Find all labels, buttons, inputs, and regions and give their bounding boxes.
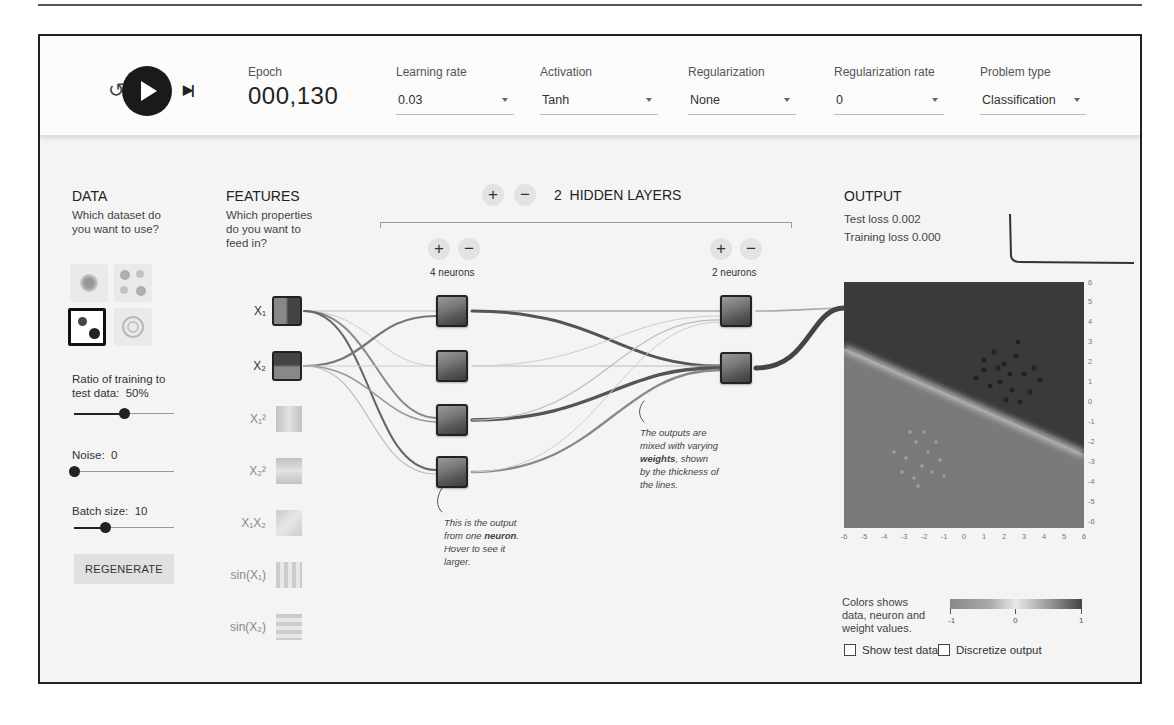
discretize-output-checkbox[interactable] bbox=[938, 644, 950, 656]
x-tick: 1 bbox=[978, 532, 990, 541]
color-legend-gradient bbox=[950, 599, 1082, 609]
legend-tick-max: 1 bbox=[1079, 616, 1083, 625]
color-legend-text: Colors shows data, neuron and weight val… bbox=[842, 596, 932, 635]
discretize-output-label[interactable]: Discretize output bbox=[956, 644, 1042, 656]
y-tick: 4 bbox=[1088, 317, 1092, 326]
x-tick: 2 bbox=[998, 532, 1010, 541]
y-tick: 2 bbox=[1088, 357, 1092, 366]
legend-tick-min: -1 bbox=[948, 616, 955, 625]
x-tick: -6 bbox=[838, 532, 850, 541]
x-tick: 4 bbox=[1038, 532, 1050, 541]
y-tick: -3 bbox=[1088, 457, 1095, 466]
x-tick: 6 bbox=[1078, 532, 1090, 541]
y-tick: 6 bbox=[1088, 278, 1092, 287]
y-tick: 5 bbox=[1088, 297, 1092, 306]
test-loss: Test loss 0.002 bbox=[844, 212, 921, 226]
neuron-layer2-1[interactable] bbox=[720, 295, 752, 327]
neuron-layer1-4[interactable] bbox=[436, 456, 468, 488]
x-tick: -3 bbox=[898, 532, 910, 541]
legend-tick-mid: 0 bbox=[1013, 616, 1017, 625]
neuron-layer2-2[interactable] bbox=[720, 352, 752, 384]
y-tick: -4 bbox=[1088, 477, 1095, 486]
x-tick: -1 bbox=[938, 532, 950, 541]
x-tick: 5 bbox=[1058, 532, 1070, 541]
output-title: OUTPUT bbox=[844, 188, 902, 204]
neuron-layer1-1[interactable] bbox=[436, 295, 468, 327]
neuron-layer1-2[interactable] bbox=[436, 350, 468, 382]
y-tick: 1 bbox=[1088, 377, 1092, 386]
neuron-callout-note: This is the output from one neuron. Hove… bbox=[444, 516, 554, 568]
playground-frame: ↺ ▶| Epoch 000,130 Learning rate 0.03 Ac… bbox=[38, 34, 1142, 684]
y-tick: -1 bbox=[1088, 417, 1095, 426]
y-tick: -5 bbox=[1088, 497, 1095, 506]
top-rule bbox=[38, 4, 1142, 6]
neuron-layer1-3[interactable] bbox=[436, 404, 468, 436]
y-tick: 0 bbox=[1088, 397, 1092, 406]
show-test-data-checkbox[interactable] bbox=[844, 644, 856, 656]
x-tick: -4 bbox=[878, 532, 890, 541]
x-tick: -5 bbox=[858, 532, 870, 541]
output-decision-heatmap[interactable] bbox=[844, 282, 1084, 528]
training-loss: Training loss 0.000 bbox=[844, 230, 941, 244]
show-test-data-label[interactable]: Show test data bbox=[862, 644, 938, 656]
x-tick: 3 bbox=[1018, 532, 1030, 541]
y-tick: -2 bbox=[1088, 437, 1095, 446]
weights-callout-note: The outputs are mixed with varying weigh… bbox=[640, 426, 760, 491]
x-tick: -2 bbox=[918, 532, 930, 541]
x-tick: 0 bbox=[958, 532, 970, 541]
y-tick: 3 bbox=[1088, 337, 1092, 346]
y-tick: -6 bbox=[1088, 517, 1095, 526]
loss-curve-chart bbox=[1008, 212, 1138, 268]
